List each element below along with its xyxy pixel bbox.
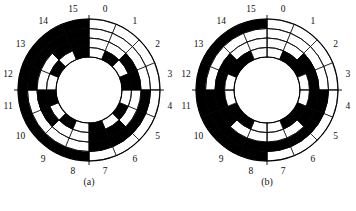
disc-a-stage: 0123456789101112131415 [0, 0, 178, 178]
sector-label-4: 4 [168, 101, 173, 111]
sector-label-6: 6 [132, 154, 137, 164]
figure-b: 0123456789101112131415 (b) [178, 0, 356, 211]
sector-label-15: 15 [68, 4, 78, 14]
sector-label-11: 11 [182, 101, 191, 111]
sector-label-8: 8 [71, 166, 76, 176]
figure-b-caption: (b) [178, 176, 356, 187]
sector-label-14: 14 [216, 16, 226, 26]
disc-a-tracks [14, 15, 164, 165]
encoder-disc-figure-panel: 0123456789101112131415 (a) 0123456789101… [0, 0, 356, 211]
sector-label-14: 14 [38, 16, 48, 26]
sector-label-9: 9 [219, 154, 224, 164]
sector-label-9: 9 [41, 154, 46, 164]
sector-label-6: 6 [310, 154, 315, 164]
figure-a: 0123456789101112131415 (a) [0, 0, 178, 211]
disc-b-stage: 0123456789101112131415 [178, 0, 356, 178]
sector-label-3: 3 [168, 69, 173, 79]
sector-label-10: 10 [194, 131, 204, 141]
disc-a-svg [0, 0, 178, 178]
sector-label-10: 10 [16, 131, 26, 141]
sector-label-1: 1 [132, 16, 137, 26]
sector-label-7: 7 [281, 166, 286, 176]
figure-a-caption: (a) [0, 176, 178, 187]
sector-label-13: 13 [194, 39, 204, 49]
sector-label-0: 0 [103, 4, 108, 14]
sector-label-2: 2 [155, 39, 160, 49]
sector-label-13: 13 [16, 39, 26, 49]
sector-label-1: 1 [310, 16, 315, 26]
track-boundary-circle [234, 57, 300, 123]
sector-label-0: 0 [281, 4, 286, 14]
disc-b-tracks [192, 15, 342, 165]
sector-label-5: 5 [333, 131, 338, 141]
sector-label-12: 12 [3, 69, 13, 79]
sector-label-15: 15 [246, 4, 256, 14]
sector-label-8: 8 [249, 166, 254, 176]
sector-label-7: 7 [103, 166, 108, 176]
sector-label-5: 5 [155, 131, 160, 141]
sector-label-11: 11 [4, 101, 13, 111]
disc-b-svg [178, 0, 356, 178]
sector-label-2: 2 [333, 39, 338, 49]
track-boundary-circle [56, 57, 122, 123]
sector-label-4: 4 [346, 101, 351, 111]
sector-label-3: 3 [346, 69, 351, 79]
sector-label-12: 12 [181, 69, 191, 79]
